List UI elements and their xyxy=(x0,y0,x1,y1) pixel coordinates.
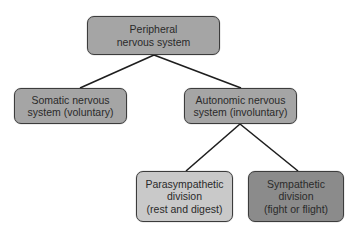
node-label-line: system (involuntary) xyxy=(194,106,288,119)
node-label-line: division xyxy=(167,190,202,203)
node-label-line: Parasympathetic xyxy=(145,178,223,191)
edge-autonomic-parasympathetic xyxy=(186,124,240,171)
node-autonomic-nervous-system: Autonomic nervous system (involuntary) xyxy=(184,88,297,124)
node-parasympathetic-division: Parasympathetic division (rest and diges… xyxy=(136,171,233,222)
node-peripheral-nervous-system: Peripheral nervous system xyxy=(87,16,220,55)
node-label-line: (rest and digest) xyxy=(147,203,223,216)
node-label-line: Sympathetic xyxy=(267,178,325,191)
node-label-line: division xyxy=(278,190,313,203)
edge-root-somatic xyxy=(80,55,154,88)
node-label-line: (fight or flight) xyxy=(264,203,328,216)
node-sympathetic-division: Sympathetic division (fight or flight) xyxy=(248,171,344,222)
node-somatic-nervous-system: Somatic nervous system (voluntary) xyxy=(14,88,127,124)
node-label-line: Somatic nervous xyxy=(31,94,109,107)
node-label-line: Peripheral xyxy=(130,23,178,36)
edge-autonomic-sympathetic xyxy=(240,124,298,171)
edge-root-autonomic xyxy=(154,55,241,88)
node-label-line: Autonomic nervous xyxy=(196,94,286,107)
node-label-line: nervous system xyxy=(117,36,191,49)
node-label-line: system (voluntary) xyxy=(28,106,114,119)
